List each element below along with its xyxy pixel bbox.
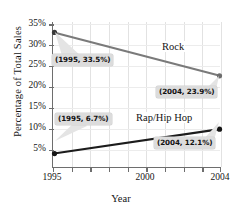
x-tick-label-2004: 2004 [200,172,240,182]
series-label-rap: Rap/Hip Hop [135,112,193,123]
x-tick-label-1995: 1995 [32,172,72,182]
y-tick-label-25: 25% [12,60,46,70]
x-axis-title: Year [0,193,242,204]
y-tick-label-5: 5% [12,144,46,154]
callout-rock-1995: (1995, 33.5%) [52,54,113,66]
y-tick-label-30: 30% [12,40,46,50]
callout-rock-2004: (2004, 23.9%) [156,86,217,98]
plot-area: Rock Rap/Hip Hop (1995, 33.5%) (2004, 23… [52,22,220,168]
callout-rap-1995: (1995, 6.7%) [55,113,112,125]
data-point-rap-2004 [217,127,222,132]
callout-rap-2004: (2004, 12.1%) [154,137,215,149]
data-point-rap-1995 [52,151,57,156]
series-label-rock: Rock [161,41,185,52]
x-tick-label-2000: 2000 [125,172,165,182]
y-tick-label-20: 20% [12,81,46,91]
y-tick-label-15: 15% [12,102,46,112]
y-tick-label-10: 10% [12,123,46,133]
y-tick-label-35: 35% [12,19,46,29]
line-chart: Percentage of Total Sales 35% 30% 25% 20… [0,0,242,213]
